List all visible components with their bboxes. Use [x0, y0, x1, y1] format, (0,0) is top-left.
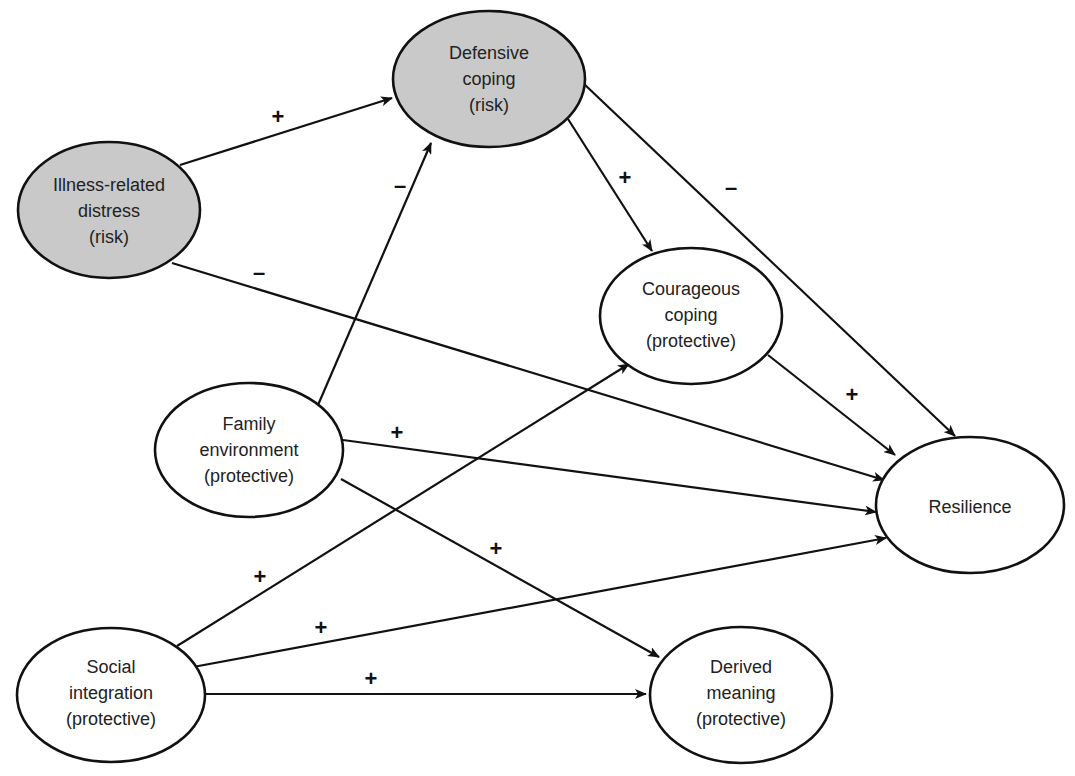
node-label-line: environment	[199, 440, 298, 460]
node-label-line: integration	[69, 683, 153, 703]
edge-family-to-defensive	[315, 143, 431, 412]
node-label-line: distress	[78, 201, 140, 221]
node-defensive-coping: Defensive coping (risk)	[393, 11, 585, 147]
path-diagram: + – – + – + + + + + + Illness-related di…	[0, 0, 1075, 776]
node-label-line: (protective)	[66, 709, 156, 729]
node-label-line: Defensive	[449, 43, 529, 63]
node-label-line: Courageous	[642, 279, 740, 299]
sign-illness-defensive: +	[272, 104, 285, 129]
node-courageous-coping: Courageous coping (protective)	[600, 248, 782, 384]
sign-defensive-courageous: +	[619, 165, 632, 190]
edge-defensive-to-courageous	[568, 119, 652, 251]
edge-courageous-to-resilience	[768, 355, 895, 455]
node-label-line: meaning	[706, 683, 775, 703]
sign-social-resilience: +	[315, 615, 328, 640]
sign-courageous-resilience: +	[846, 382, 859, 407]
node-label-line: Family	[223, 414, 276, 434]
edge-illness-to-defensive	[180, 98, 392, 165]
sign-social-derived: +	[365, 666, 378, 691]
sign-illness-resilience: –	[253, 260, 265, 285]
node-illness-related-distress: Illness-related distress (risk)	[18, 142, 200, 278]
node-label-line: Derived	[710, 657, 772, 677]
node-label-line: Social	[86, 657, 135, 677]
sign-defensive-resilience: –	[725, 175, 737, 200]
node-derived-meaning: Derived meaning (protective)	[650, 627, 832, 763]
sign-family-defensive: –	[394, 173, 406, 198]
node-label-line: (risk)	[89, 227, 129, 247]
node-label-line: (risk)	[469, 95, 509, 115]
edge-family-to-resilience	[343, 440, 876, 512]
node-label-line: Resilience	[928, 497, 1011, 517]
sign-family-derived: +	[490, 536, 503, 561]
node-label-line: Illness-related	[53, 175, 165, 195]
node-social-integration: Social integration (protective)	[17, 628, 205, 762]
node-label-line: (protective)	[646, 331, 736, 351]
node-resilience: Resilience	[876, 437, 1064, 573]
sign-social-courageous: +	[254, 564, 267, 589]
node-label-line: (protective)	[696, 709, 786, 729]
edge-signs: + – – + – + + + + + +	[253, 104, 859, 691]
node-label-line: (protective)	[204, 466, 294, 486]
node-label-line: coping	[462, 69, 515, 89]
sign-family-resilience: +	[391, 420, 404, 445]
node-family-environment: Family environment (protective)	[155, 383, 343, 517]
node-label-line: coping	[664, 305, 717, 325]
